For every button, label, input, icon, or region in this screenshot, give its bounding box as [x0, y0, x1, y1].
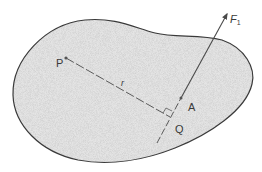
label-q: Q	[175, 124, 184, 135]
point-a-dot	[180, 97, 183, 100]
label-force-f1: F1	[230, 14, 241, 28]
diagram-canvas	[0, 0, 262, 172]
force-symbol: F	[230, 13, 237, 25]
force-subscript: 1	[237, 19, 241, 26]
label-a: A	[188, 102, 195, 113]
point-p-dot	[64, 56, 67, 59]
label-r: r	[121, 78, 124, 89]
rigid-body-texture	[13, 19, 253, 162]
label-p: P	[56, 58, 63, 69]
